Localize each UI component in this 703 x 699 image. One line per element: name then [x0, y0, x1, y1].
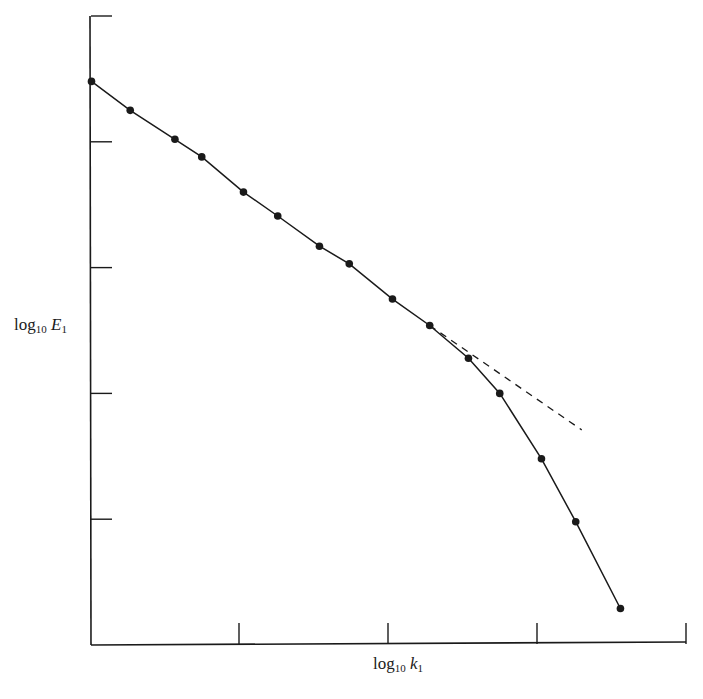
y-axis: [90, 16, 91, 645]
data-point-marker: [274, 212, 282, 220]
x-label-base: 10: [395, 662, 406, 674]
y-label-var-sub: 1: [61, 323, 67, 335]
data-point-marker: [126, 107, 134, 115]
data-point-marker: [88, 78, 96, 86]
x-label-var: k: [410, 654, 418, 673]
data-point-marker: [345, 260, 353, 268]
x-label-var-sub: 1: [418, 662, 424, 674]
data-point-marker: [389, 295, 397, 303]
y-label-base: 10: [36, 323, 47, 335]
data-point-marker: [465, 354, 473, 362]
dashed-extrapolation-line: [430, 326, 582, 430]
data-point-marker: [572, 518, 580, 526]
data-point-marker: [538, 455, 546, 463]
data-point-marker: [496, 390, 504, 398]
chart-canvas: [0, 0, 703, 699]
series-group: [88, 78, 625, 613]
y-ticks: [91, 16, 112, 519]
x-label-prefix: log: [373, 654, 395, 673]
data-point-marker: [316, 242, 324, 250]
data-line: [92, 81, 621, 608]
data-point-marker: [617, 605, 625, 613]
data-point-marker: [171, 135, 179, 143]
y-label-var: E: [51, 315, 61, 334]
data-point-marker: [198, 153, 206, 161]
y-label-prefix: log: [14, 315, 36, 334]
axes: [90, 16, 686, 645]
y-axis-label: log10 E1: [14, 315, 67, 335]
x-axis-label: log10 k1: [373, 654, 423, 674]
x-ticks: [239, 623, 686, 644]
data-point-marker: [240, 188, 248, 196]
